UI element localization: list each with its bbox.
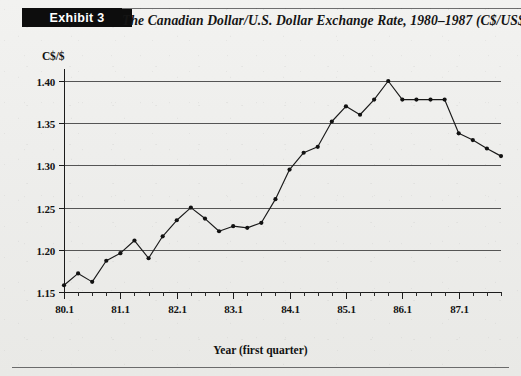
exhibit-badge: Exhibit 3: [22, 8, 132, 27]
svg-text:85.1: 85.1: [337, 303, 355, 315]
svg-text:1.20: 1.20: [37, 245, 56, 257]
page-title: The Canadian Dollar/U.S. Dollar Exchange…: [122, 13, 521, 29]
data-series: [62, 79, 503, 287]
svg-text:1.40: 1.40: [37, 76, 56, 88]
exhibit-header: Exhibit 3 The Canadian Dollar/U.S. Dolla…: [0, 0, 521, 44]
svg-text:1.35: 1.35: [37, 118, 56, 130]
svg-text:84.1: 84.1: [281, 303, 299, 315]
line-chart: 1.151.201.251.301.351.40 80.181.182.183.…: [0, 44, 521, 344]
svg-text:1.15: 1.15: [37, 287, 56, 299]
title-divider: [122, 8, 521, 9]
svg-text:82.1: 82.1: [168, 303, 186, 315]
footer-divider: [12, 367, 509, 368]
svg-text:83.1: 83.1: [224, 303, 242, 315]
svg-text:1.30: 1.30: [37, 160, 56, 172]
svg-text:87.1: 87.1: [450, 303, 468, 315]
svg-text:81.1: 81.1: [111, 303, 129, 315]
svg-text:86.1: 86.1: [393, 303, 411, 315]
svg-text:1.25: 1.25: [37, 203, 56, 215]
x-tick-labels: 80.181.182.183.184.185.186.187.1: [55, 303, 468, 315]
y-tick-labels: 1.151.201.251.301.351.40: [37, 76, 56, 299]
grid-lines: [64, 82, 501, 251]
svg-text:80.1: 80.1: [55, 303, 73, 315]
axis-lines: [64, 69, 501, 293]
exhibit-page: Exhibit 3 The Canadian Dollar/U.S. Dolla…: [0, 0, 521, 376]
x-axis-label: Year (first quarter): [0, 344, 521, 356]
chart-plot-area: C$/$ 1.151.201.251.301.351.40 80.181.182…: [0, 44, 521, 344]
